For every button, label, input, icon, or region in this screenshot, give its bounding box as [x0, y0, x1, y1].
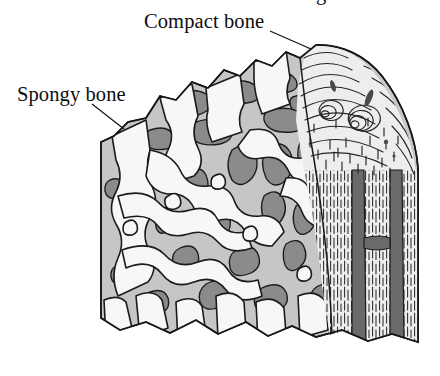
- figure-canvas: Compact bone Spongy bone g: [0, 0, 440, 376]
- clipped-text-fragment-top: g: [316, 0, 342, 5]
- bone-structure-illustration: [0, 0, 440, 376]
- clipped-text-glyph: g: [316, 0, 326, 4]
- label-spongy-bone: Spongy bone: [17, 84, 126, 105]
- label-compact-bone: Compact bone: [144, 11, 264, 32]
